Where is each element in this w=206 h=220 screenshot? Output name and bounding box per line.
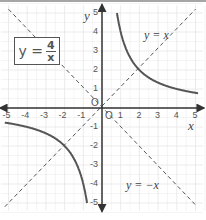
grid-lines: [0, 1, 206, 213]
formula-lhs: y =: [18, 43, 42, 59]
y-tick-label: 3: [93, 45, 98, 55]
y-tick-label: -5: [90, 197, 98, 207]
x-axis-label: x: [188, 118, 194, 134]
x-tick-label: 2: [136, 110, 141, 120]
x-tick-label: -1: [77, 110, 85, 120]
x-tick-label: -5: [3, 110, 11, 120]
y-tick-label: 4: [93, 26, 98, 36]
y-tick-label: -2: [90, 140, 98, 150]
x-tick-label: 4: [174, 110, 179, 120]
label-y-equals-neg-x: y = −x: [126, 178, 159, 193]
y-axis-label: y: [84, 8, 90, 24]
formula-numerator: 4: [46, 40, 56, 52]
label-y-equals-x: y = x: [144, 28, 169, 43]
y-tick-label: -1: [90, 121, 98, 131]
x-tick-label: -2: [59, 110, 67, 120]
x-tick-label: -4: [21, 110, 29, 120]
x-tick-label: -3: [40, 110, 48, 120]
y-tick-label: -3: [90, 159, 98, 169]
y-tick-label: -4: [90, 178, 98, 188]
x-tick-label: 1: [118, 110, 123, 120]
y-tick-label: 5: [93, 7, 98, 17]
origin-label: O: [105, 110, 113, 121]
x-tick-label: 3: [155, 110, 160, 120]
y-tick-label: 1: [93, 83, 98, 93]
formula-fraction: 4 x: [46, 40, 56, 63]
formula-denominator: x: [47, 52, 54, 63]
formula-box: y = 4 x: [14, 37, 60, 65]
y-tick-label: 2: [93, 64, 98, 74]
origin-label-left: O: [91, 97, 99, 108]
